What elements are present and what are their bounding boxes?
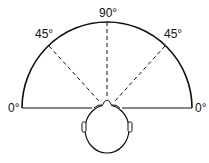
angle-diagram: 0° 45° 90° 45° 0°: [0, 0, 209, 163]
label-right-45: 45°: [164, 27, 182, 41]
dashed-line-45-right: [115, 46, 165, 101]
label-top-90: 90°: [99, 6, 117, 20]
label-left-0: 0°: [8, 101, 20, 115]
label-right-0: 0°: [195, 101, 207, 115]
label-left-45: 45°: [35, 27, 53, 41]
dashed-line-45-left: [49, 46, 99, 101]
